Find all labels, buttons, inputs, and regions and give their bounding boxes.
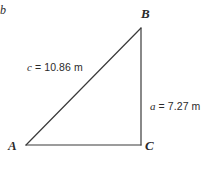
triangle-figure: B A C c = 10.86 m a = 7.27 m b <box>0 0 210 170</box>
side-a-unit: m <box>192 100 201 112</box>
side-c-unit: m <box>74 61 83 73</box>
side-length-label-c: c = 10.86 m <box>27 62 83 73</box>
triangle-side-hypotenuse-c <box>26 28 141 145</box>
vertex-label-a: A <box>8 139 17 152</box>
side-c-equals: = <box>35 61 41 73</box>
side-length-label-a: a = 7.27 m <box>150 101 200 112</box>
vertex-label-c: C <box>145 139 154 152</box>
vertex-label-b: B <box>141 7 150 20</box>
side-a-value: 7.27 <box>168 100 189 112</box>
side-c-equals-and-value: = 10.86 <box>32 61 71 73</box>
side-a-equals: = <box>159 100 165 112</box>
triangle-drawing <box>0 0 210 170</box>
side-a-equals-and-value: = 7.27 <box>156 100 189 112</box>
side-c-value: 10.86 <box>44 61 71 73</box>
